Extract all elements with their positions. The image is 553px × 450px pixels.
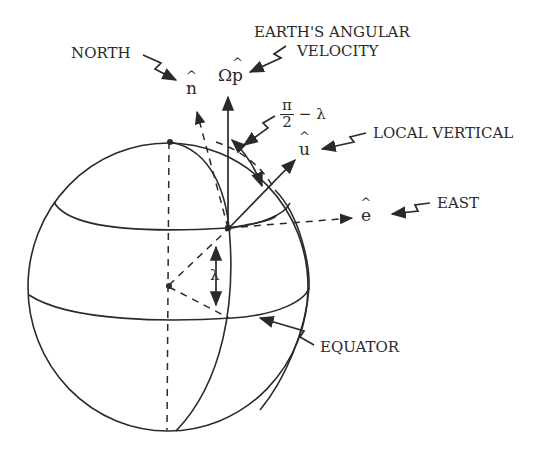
latitude-lambda-symbol: λ (210, 268, 220, 283)
local-vertical-symbol: u (299, 141, 310, 158)
north-unit-vector-symbol: n (186, 80, 197, 97)
equator-line (29, 288, 309, 320)
colatitude-leader (244, 116, 275, 145)
meridian-line (170, 142, 231, 431)
radius-to-equator (169, 287, 229, 318)
earth-center-point (166, 283, 172, 289)
colatitude-angle-arc (232, 140, 262, 186)
angular-velocity-label-line1: EARTH'S ANGULAR (254, 25, 410, 40)
east-leader (392, 203, 430, 214)
colatitude-label: π 2 − λ (280, 98, 326, 131)
north-leader (143, 55, 176, 80)
local-vertical-vector (230, 160, 295, 227)
east-unit-vector-symbol: e (361, 207, 371, 224)
angular-velocity-symbol: Ωp (218, 67, 243, 84)
earth-angular-velocity-diagram (0, 0, 553, 450)
north-vector (197, 112, 228, 228)
equator-leader (260, 318, 314, 345)
east-vector (228, 218, 352, 228)
equator-label: EQUATOR (320, 340, 399, 355)
east-label: EAST (437, 196, 479, 211)
local-vertical-leader (322, 133, 366, 149)
north-pole-point (167, 139, 173, 145)
angular-velocity-leader (250, 46, 286, 72)
local-vertical-label: LOCAL VERTICAL (373, 126, 513, 141)
angular-velocity-label-line2: VELOCITY (297, 44, 378, 59)
location-point (225, 225, 231, 231)
north-label: NORTH (71, 46, 131, 61)
